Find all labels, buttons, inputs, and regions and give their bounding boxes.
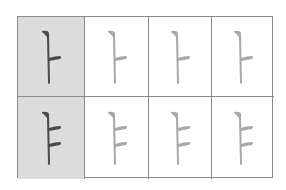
cell-trace-ya-1	[85, 97, 149, 179]
cell-trace-a-2	[149, 17, 212, 97]
glyph-a-trace	[102, 27, 132, 87]
glyph-a-trace	[165, 27, 195, 87]
cell-trace-a-1	[85, 17, 149, 97]
glyph-ya-trace	[228, 108, 258, 168]
cell-trace-a-3	[212, 17, 274, 97]
glyph-a-trace	[228, 27, 258, 87]
cell-model-a	[18, 17, 85, 97]
cell-trace-ya-2	[149, 97, 212, 179]
glyph-ya-trace	[165, 108, 195, 168]
glyph-ya-model	[36, 108, 66, 168]
cell-model-ya	[18, 97, 85, 179]
glyph-a-model	[36, 27, 66, 87]
glyph-ya-trace	[102, 108, 132, 168]
cell-trace-ya-3	[212, 97, 274, 179]
practice-grid	[17, 16, 273, 178]
